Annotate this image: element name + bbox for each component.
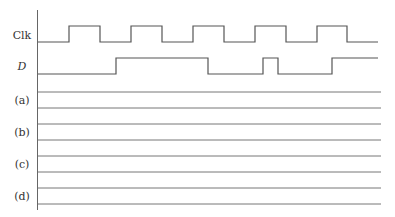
timing-diagram: ClkD (a)(b)(c)(d) (0, 0, 395, 217)
answer-row-b: (b) (14, 124, 381, 140)
answer-row-label-d: (d) (14, 190, 30, 203)
signal-d: D (17, 58, 378, 74)
answer-rows: (a)(b)(c)(d) (14, 92, 381, 204)
answer-row-label-c: (c) (15, 158, 30, 171)
answer-row-label-a: (a) (14, 94, 29, 107)
answer-row-c: (c) (15, 156, 381, 172)
signal-clk: Clk (13, 26, 378, 42)
answer-row-a: (a) (14, 92, 381, 108)
signal-label-clk: Clk (13, 29, 32, 42)
answer-row-label-b: (b) (14, 126, 30, 139)
answer-row-d: (d) (14, 188, 381, 204)
signal-label-d: D (17, 60, 27, 73)
waveform-clk (38, 26, 378, 42)
signal-waveforms: ClkD (13, 26, 378, 74)
waveform-d (38, 58, 378, 74)
